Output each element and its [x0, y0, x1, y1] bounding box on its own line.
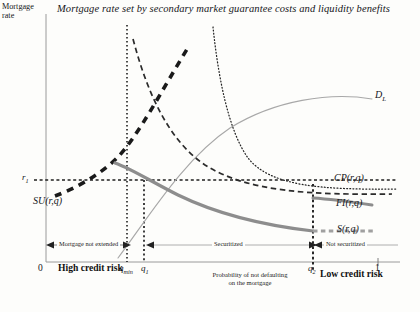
x-axis-note-line2: on the mortgage: [188, 279, 312, 287]
curve-secondary-utility-su: [55, 46, 189, 196]
figure-container: Mortgage rate set by secondary market gu…: [0, 0, 420, 312]
curve-label-su: SU(r,q): [33, 196, 62, 207]
curve-fine-dotted-steep: [213, 27, 397, 189]
annotation-securitized: Securitized: [212, 241, 245, 248]
low-risk-line2: credit: [341, 268, 365, 279]
low-risk-line3: risk: [367, 268, 383, 279]
curve-label-dl-sub: L: [382, 95, 386, 103]
tick-label-q1: q1: [141, 264, 149, 275]
curve-label-s: S(r,q): [337, 224, 359, 235]
annotation-mortgage-not-extended: Mortgage not extended: [57, 241, 120, 248]
tick-label-origin: 0: [38, 264, 43, 274]
region-label-high-credit-risk: High credit risk: [58, 263, 123, 273]
x-axis-note: Probability of not defaulting on the mor…: [188, 271, 312, 287]
curve-label-cp: CP(r,q): [334, 173, 364, 184]
y-axis-label-line2: rate: [2, 12, 46, 21]
curve-label-dl: DL: [375, 90, 386, 103]
tick-q1-sub: 1: [146, 268, 149, 275]
tick-label-r1: r1: [22, 173, 29, 184]
tick-qmin-sub: min: [124, 268, 133, 275]
region-label-low-credit-risk: Low credit risk: [320, 269, 366, 279]
annotation-not-securitized: Not securitized: [324, 241, 367, 248]
curve-label-fi: FI(r,q): [336, 198, 362, 209]
tick-r1-sub: 1: [26, 177, 29, 184]
y-axis-label: Mortgage rate: [2, 3, 46, 20]
low-risk-line1: Low: [320, 268, 338, 279]
x-axis-note-line1: Probability of not defaulting: [188, 271, 312, 279]
tick-q2-sub: 2: [313, 268, 316, 275]
chart-title: Mortgage rate set by secondary market gu…: [57, 3, 390, 14]
